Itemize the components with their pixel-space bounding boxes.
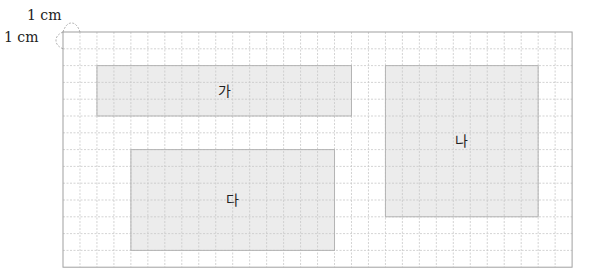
brace-top	[63, 23, 80, 32]
shape-label: 가	[218, 83, 231, 99]
grid-canvas: 가나다	[0, 0, 594, 280]
shape-label: 나	[455, 133, 468, 149]
brace-left	[56, 32, 63, 49]
grid-diagram: 1 cm 1 cm 가나다	[0, 0, 594, 280]
shape-label: 다	[226, 192, 239, 208]
